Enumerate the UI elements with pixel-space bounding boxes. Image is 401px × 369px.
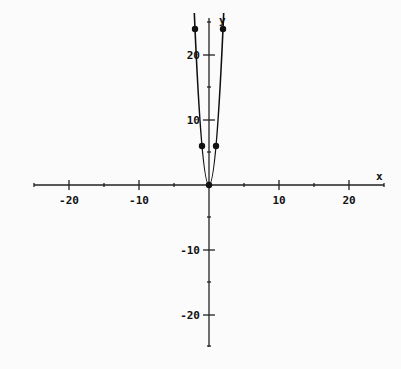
parabola-chart: -20 -10 10 20 20 10 -10 -20 x y [0,0,401,369]
x-tick-label: 20 [342,194,355,207]
y-axis-label: y [219,14,226,27]
x-axis-label: x [376,170,383,183]
y-tick-label: 20 [187,49,200,62]
point [206,182,212,188]
x-tick-label: 10 [272,194,285,207]
point [192,26,198,32]
y-tick-label: 10 [187,114,200,127]
x-tick-label: -10 [129,194,149,207]
point [213,143,219,149]
point [199,143,205,149]
y-tick-label: -10 [180,244,200,257]
x-tick-label: -20 [59,194,79,207]
y-tick-label: -20 [180,309,200,322]
